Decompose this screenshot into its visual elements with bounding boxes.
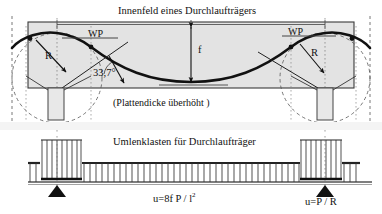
label-angle: 33,7° [93, 68, 116, 79]
pier-left [48, 88, 64, 120]
udl-hatch-mid [84, 163, 299, 182]
formula-support-load: u=P / R [305, 197, 337, 208]
beam-slab-group [12, 16, 370, 133]
tendon-node-2 [89, 45, 94, 50]
label-wp-right: WP [288, 27, 303, 37]
support-load-hatch-left [42, 140, 81, 179]
figure-title-top: Innenfeld eines Durchlaufträgers [118, 6, 256, 17]
formula-distributed-load: u=8f P / l2 [153, 192, 196, 204]
figure-root: Innenfeld eines Durchlaufträgers WP WP R… [0, 0, 382, 214]
label-radius-right: R [311, 48, 318, 59]
label-radius-left: R [45, 51, 52, 62]
udl-hatch-right-stub [344, 163, 356, 182]
tendon-node-3 [289, 45, 294, 50]
section-separator [0, 122, 382, 130]
label-wp-left: WP [88, 29, 103, 39]
note-slab-thickness: (Plattendicke überhöht ) [113, 98, 210, 108]
support-load-hatch-right [301, 140, 341, 179]
support-triangle-left [48, 185, 66, 197]
figure-title-mid: Umlenklasten für Durchlaufträger [113, 137, 256, 148]
tendon-node-1 [28, 36, 33, 41]
formula-distributed-load-exponent: 2 [192, 191, 196, 199]
pier-right [317, 88, 333, 120]
formula-distributed-load-base: u=8f P / l [153, 193, 192, 204]
tendon-node-4 [350, 36, 355, 41]
label-sag-f: f [198, 45, 202, 56]
udl-hatch-left-stub [30, 163, 36, 182]
